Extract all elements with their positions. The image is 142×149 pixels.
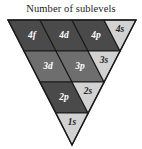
cell-label-4f: 4f [27, 30, 37, 40]
cell-label-2s: 2s [83, 86, 93, 96]
cell-label-4d: 4d [58, 30, 69, 40]
cell-label-2p: 2p [58, 92, 69, 102]
triangle-chart: 4f 4d 4p 4s 3d 3p 3s 2p 2s 1s [0, 0, 142, 149]
cell-label-4p: 4p [90, 30, 101, 40]
sublevels-diagram: Number of sublevels 4f 4d 4p 4s 3d 3p 3s… [0, 0, 142, 149]
cell-label-3s: 3s [99, 55, 109, 65]
cell-label-4s: 4s [115, 24, 125, 34]
cell-label-3p: 3p [74, 61, 85, 71]
cell-label-1s: 1s [68, 117, 77, 127]
cell-label-3d: 3d [42, 61, 53, 71]
